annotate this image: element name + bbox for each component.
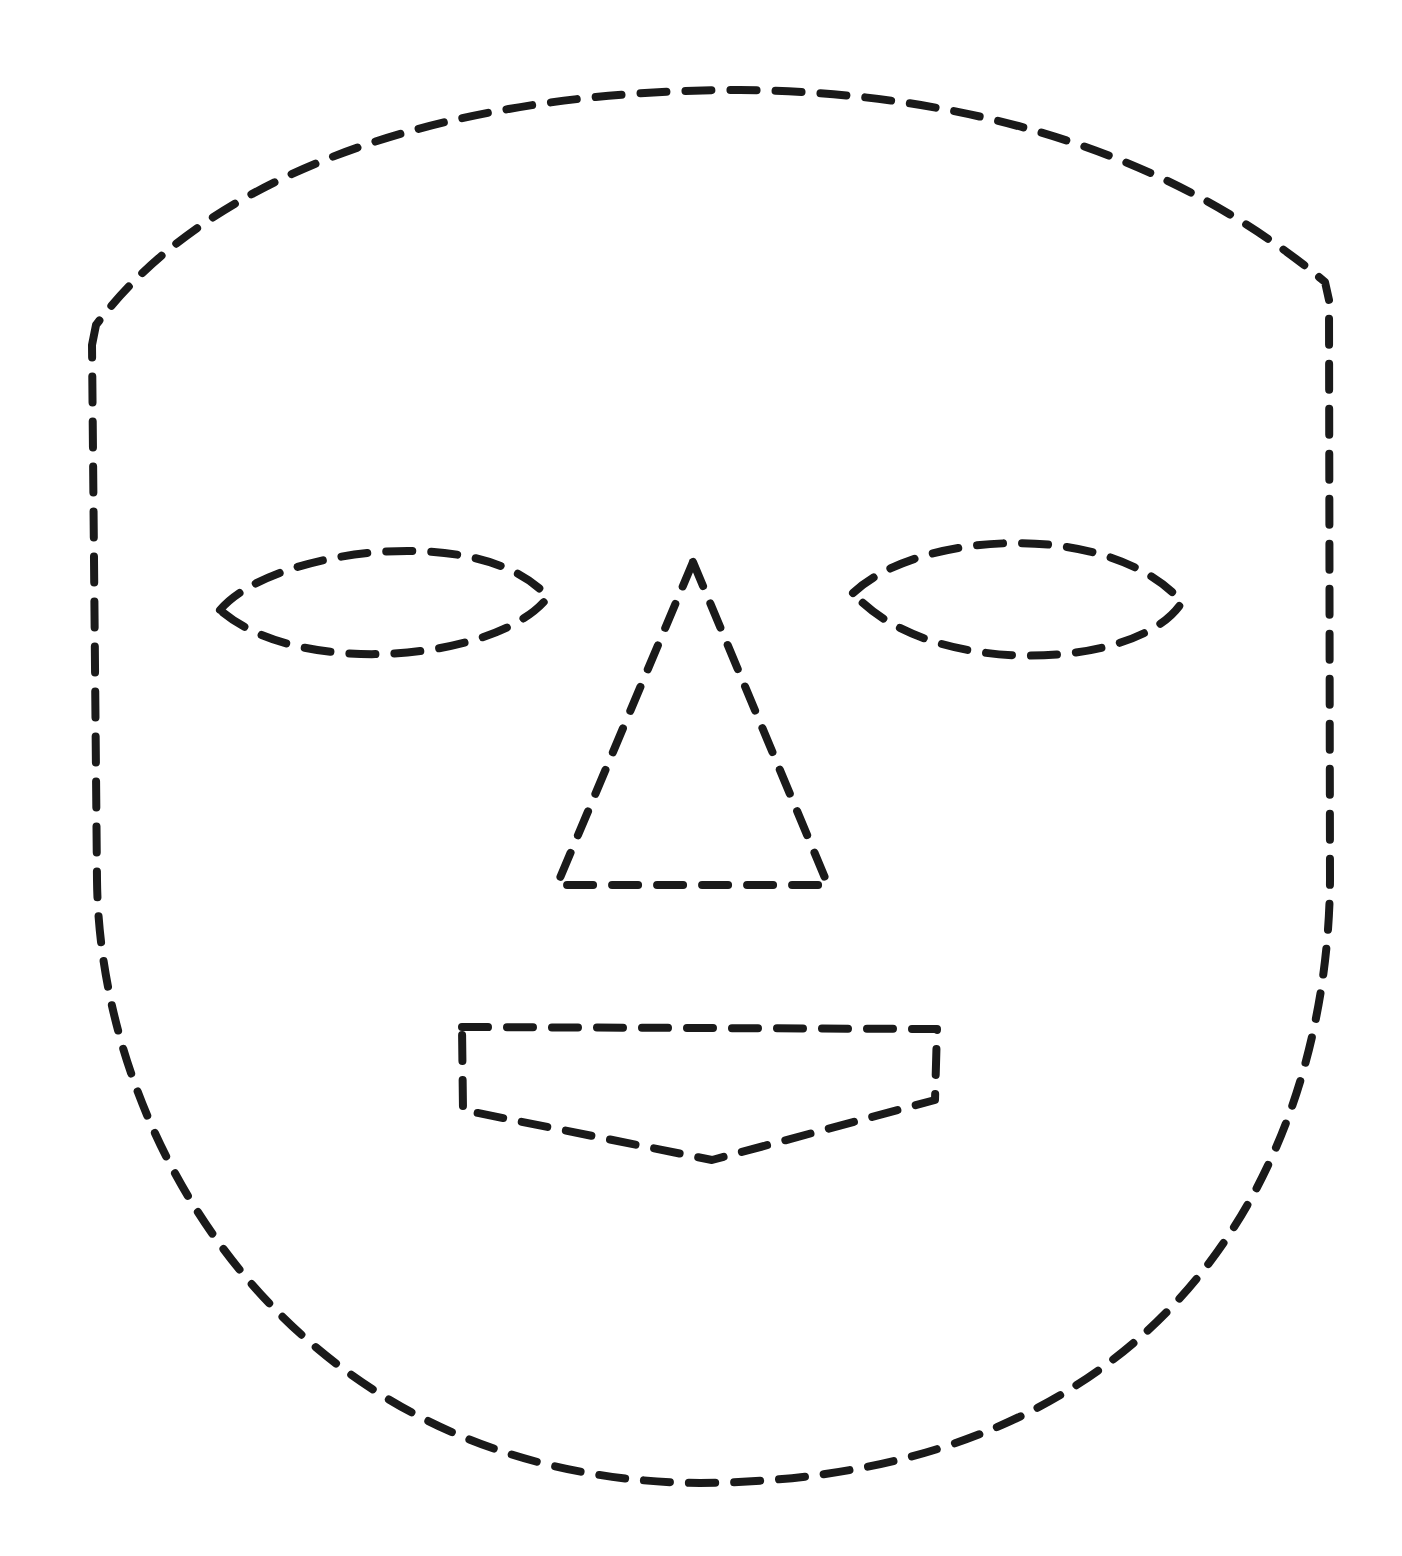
paper-background <box>0 0 1402 1556</box>
face-drawing <box>0 0 1402 1556</box>
